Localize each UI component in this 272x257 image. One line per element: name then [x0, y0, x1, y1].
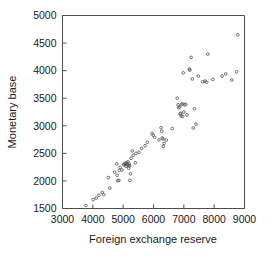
- plot-frame: [63, 16, 245, 209]
- data-point: [195, 123, 198, 126]
- data-point: [221, 75, 224, 78]
- data-point: [193, 107, 196, 110]
- data-point: [182, 111, 185, 114]
- scatter-plot-figure: 15002000250030003500400045005000 3000400…: [0, 0, 272, 257]
- data-point: [107, 176, 110, 179]
- y-tick-label: 3500: [33, 92, 57, 104]
- data-point: [113, 171, 116, 174]
- y-tick-label: 5000: [33, 9, 57, 21]
- data-point: [171, 127, 174, 130]
- y-tick-label: 4000: [33, 64, 57, 76]
- x-tick-label: 7000: [172, 213, 196, 225]
- x-tick-label: 5000: [111, 213, 135, 225]
- y-axis-label: Monetary base: [6, 76, 18, 149]
- data-point: [138, 151, 141, 154]
- data-point: [128, 179, 131, 182]
- data-point: [190, 56, 193, 59]
- data-point: [153, 136, 156, 139]
- data-point: [165, 139, 168, 142]
- data-point: [118, 169, 121, 172]
- data-point: [197, 75, 200, 78]
- y-tick-label: 2000: [33, 175, 57, 187]
- data-point: [160, 126, 163, 129]
- data-point: [134, 161, 137, 164]
- data-point: [205, 81, 208, 84]
- chart-canvas: 15002000250030003500400045005000 3000400…: [0, 0, 272, 257]
- data-point: [236, 33, 239, 36]
- data-point: [224, 73, 227, 76]
- data-point: [191, 78, 194, 81]
- data-point: [186, 113, 189, 116]
- data-point: [158, 139, 161, 142]
- data-point: [162, 145, 165, 148]
- data-point: [144, 144, 147, 147]
- x-axis-ticks: 3000400050006000700080009000: [51, 205, 257, 225]
- data-point: [98, 194, 101, 197]
- data-point: [135, 152, 138, 155]
- data-point: [235, 70, 238, 73]
- y-axis-ticks: 15002000250030003500400045005000: [33, 9, 66, 214]
- y-tick-label: 3000: [33, 120, 57, 132]
- x-tick-label: 6000: [142, 213, 166, 225]
- data-point-layer: [85, 33, 240, 206]
- x-tick-label: 4000: [81, 213, 105, 225]
- x-axis-label: Foreign exchange reserve: [89, 233, 217, 245]
- y-tick-label: 4500: [33, 37, 57, 49]
- y-tick-label: 2500: [33, 147, 57, 159]
- data-point: [131, 150, 134, 153]
- data-point: [176, 97, 179, 100]
- data-point: [140, 147, 143, 150]
- data-point: [108, 187, 111, 190]
- data-point: [121, 169, 124, 172]
- data-point: [115, 162, 118, 165]
- data-point: [146, 141, 149, 144]
- data-point: [85, 204, 88, 207]
- data-point: [130, 157, 133, 160]
- data-point: [116, 174, 119, 177]
- x-tick-label: 9000: [233, 213, 257, 225]
- x-tick-label: 8000: [202, 213, 226, 225]
- data-point: [95, 197, 98, 200]
- data-point: [132, 154, 135, 157]
- x-tick-label: 3000: [51, 213, 75, 225]
- data-point: [192, 127, 195, 130]
- data-point: [102, 193, 105, 196]
- data-point: [206, 53, 209, 56]
- data-point: [160, 130, 163, 133]
- plot-border: [63, 16, 245, 209]
- data-point: [129, 172, 132, 175]
- data-point: [92, 198, 95, 201]
- data-point: [163, 142, 166, 145]
- data-point: [212, 78, 215, 81]
- data-point: [182, 72, 185, 75]
- data-point: [230, 79, 233, 82]
